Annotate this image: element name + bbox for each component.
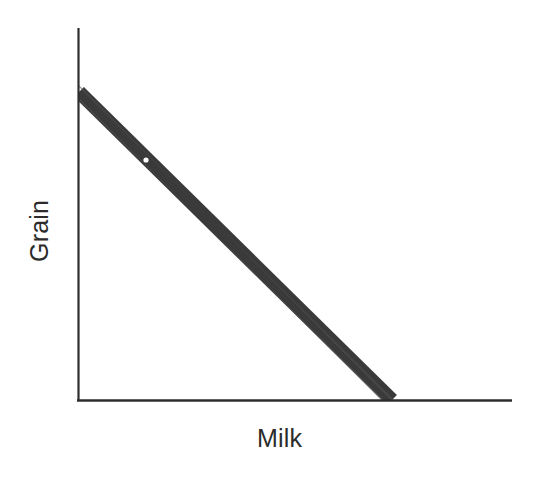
frontier-line-group bbox=[74, 85, 397, 405]
frontier-line bbox=[74, 87, 397, 405]
interior-point-marker bbox=[143, 157, 148, 162]
chart-container: Grain Milk bbox=[0, 0, 541, 480]
y-axis-label: Grain bbox=[25, 200, 54, 262]
x-axis-label: Milk bbox=[257, 424, 302, 453]
chart-plot-area bbox=[0, 0, 541, 480]
